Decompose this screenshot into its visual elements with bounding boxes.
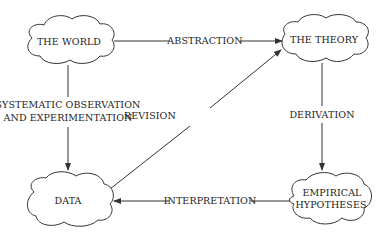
node-label-line-1: EMPIRICAL <box>302 187 362 198</box>
edge-label-derivation: DERIVATION <box>289 109 354 120</box>
node-data: DATA <box>27 172 113 227</box>
node-label: THE THEORY <box>290 34 359 45</box>
node-label-line-2: HYPOTHESES <box>295 199 366 210</box>
node-label: DATA <box>54 195 81 206</box>
node-label: THE WORLD <box>37 36 101 47</box>
edge-label-observation-line-2: AND EXPERIMENTATION <box>3 112 133 123</box>
edge-label-observation-line-1: SYSTEMATIC OBSERVATION <box>0 99 140 110</box>
edge-label-interpretation: INTERPRETATION <box>164 195 257 206</box>
edge-label-abstraction: ABSTRACTION <box>166 35 242 46</box>
scientific-method-diagram: THE WORLD THE THEORY EMPIRICAL HYPOTHESE… <box>0 0 377 235</box>
node-the-world: THE WORLD <box>28 16 114 64</box>
node-empirical-hypotheses: EMPIRICAL HYPOTHESES <box>290 173 372 224</box>
node-the-theory: THE THEORY <box>282 15 368 62</box>
